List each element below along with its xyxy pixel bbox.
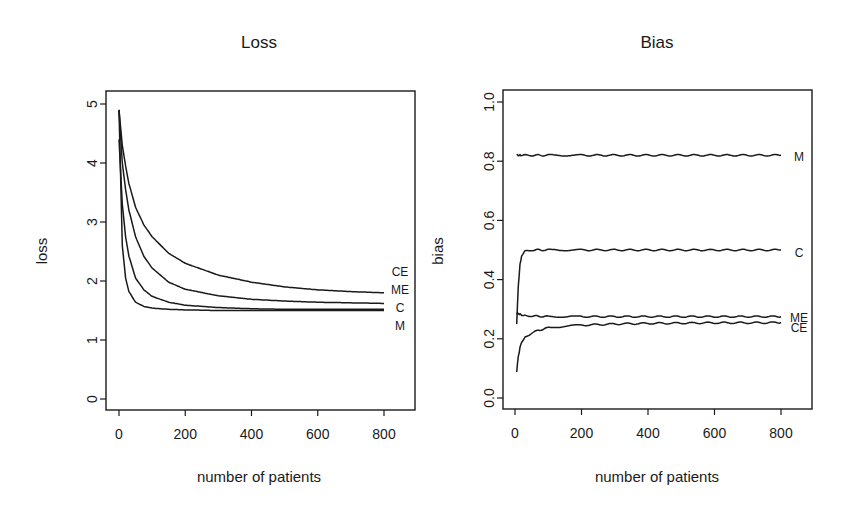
series-line-me — [517, 313, 781, 317]
y-tick-label: 5 — [84, 100, 100, 108]
series-label-m: M — [395, 319, 405, 333]
y-tick-label: 1 — [84, 336, 100, 344]
series-label-ce: CE — [392, 265, 409, 279]
series-line-c — [119, 139, 384, 309]
y-tick-label: 0.8 — [481, 151, 497, 171]
loss-panel: Loss 012345 0200400600800 CEMECM number … — [33, 33, 415, 485]
series-label-c: C — [396, 301, 405, 315]
loss-plot-frame — [106, 91, 415, 410]
x-tick-label: 800 — [372, 426, 396, 442]
loss-y-label: loss — [33, 238, 50, 265]
series-label-ce: CE — [791, 321, 808, 335]
figure: Loss 012345 0200400600800 CEMECM number … — [0, 0, 850, 515]
bias-x-label: number of patients — [595, 468, 719, 485]
y-tick-label: 0.4 — [481, 270, 497, 290]
y-tick-label: 0.6 — [481, 210, 497, 230]
bias-title: Bias — [640, 33, 673, 52]
x-tick-label: 200 — [570, 425, 594, 441]
bias-panel: Bias 0.00.20.40.60.81.0 0200400600800 MC… — [429, 33, 812, 485]
y-tick-label: 1.0 — [481, 92, 497, 112]
series-line-me — [119, 110, 384, 304]
x-tick-label: 200 — [174, 426, 198, 442]
y-tick-label: 4 — [84, 159, 100, 167]
bias-x-axis: 0200400600800 — [511, 409, 793, 441]
y-tick-label: 3 — [84, 218, 100, 226]
series-label-m: M — [794, 150, 804, 164]
series-line-m — [119, 110, 384, 311]
y-tick-label: 2 — [84, 277, 100, 285]
series-line-ce — [517, 322, 781, 372]
bias-y-axis: 0.00.20.40.60.81.0 — [481, 92, 503, 408]
loss-title: Loss — [241, 33, 277, 52]
loss-x-label: number of patients — [197, 468, 321, 485]
x-tick-label: 0 — [511, 425, 519, 441]
x-tick-label: 400 — [636, 425, 660, 441]
series-line-m — [517, 155, 781, 157]
bias-series — [517, 155, 781, 373]
loss-series — [119, 110, 384, 311]
y-tick-label: 0 — [84, 395, 100, 403]
loss-line-labels: CEMECM — [391, 265, 409, 333]
y-tick-label: 0.0 — [481, 388, 497, 408]
x-tick-label: 800 — [769, 425, 793, 441]
x-tick-label: 0 — [115, 426, 123, 442]
series-label-me: ME — [391, 283, 409, 297]
x-tick-label: 600 — [703, 425, 727, 441]
series-label-c: C — [795, 246, 804, 260]
series-line-c — [517, 249, 781, 324]
x-tick-label: 400 — [240, 426, 264, 442]
bias-line-labels: MCMECE — [790, 150, 808, 335]
series-line-ce — [119, 110, 384, 293]
y-tick-label: 0.2 — [481, 329, 497, 349]
loss-x-axis: 0200400600800 — [115, 410, 396, 442]
loss-y-axis: 012345 — [84, 100, 106, 403]
bias-y-label: bias — [429, 237, 446, 265]
x-tick-label: 600 — [306, 426, 330, 442]
